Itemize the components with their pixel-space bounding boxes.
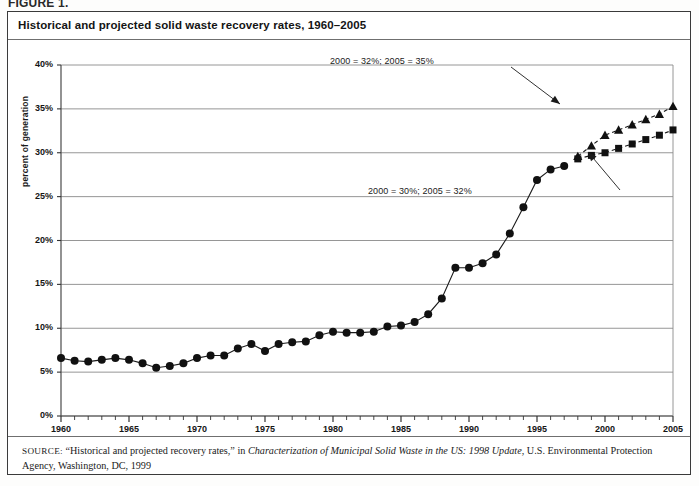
data-point-circle [302, 337, 310, 345]
data-point-circle [506, 229, 514, 237]
series-1 [573, 102, 677, 160]
data-point-circle [479, 259, 487, 267]
data-point-triangle [600, 131, 609, 139]
data-point-circle [179, 359, 187, 367]
data-point-square [574, 155, 581, 162]
data-point-circle [465, 264, 473, 272]
data-point-circle [547, 165, 555, 173]
data-point-circle [370, 328, 378, 336]
data-point-circle [519, 203, 527, 211]
data-point-square [656, 132, 663, 139]
data-point-circle [492, 251, 500, 259]
data-point-circle [451, 264, 459, 272]
series-0 [57, 162, 568, 372]
data-point-circle [261, 347, 269, 355]
data-point-circle [57, 354, 65, 362]
figure-box: Historical and projected solid waste rec… [7, 11, 691, 475]
figure-page: FIGURE 1. Historical and projected solid… [0, 0, 699, 486]
data-point-circle [84, 358, 92, 366]
data-point-circle [152, 364, 160, 372]
data-point-circle [275, 340, 283, 348]
data-point-circle [139, 359, 147, 367]
data-point-square [615, 145, 622, 152]
data-point-circle [234, 344, 242, 352]
data-point-square [670, 126, 677, 133]
cropped-heading-above-figure: FIGURE 1. [8, 0, 128, 10]
data-point-triangle [614, 125, 623, 133]
data-point-circle [98, 356, 106, 364]
data-point-circle [111, 354, 119, 362]
data-point-square [642, 136, 649, 143]
data-point-circle [193, 354, 201, 362]
data-point-circle [438, 294, 446, 302]
annotation-arrow-upper [511, 67, 560, 104]
data-point-circle [560, 162, 568, 170]
data-point-circle [166, 362, 174, 370]
chart-plot-area [8, 12, 692, 476]
data-point-circle [288, 338, 296, 346]
source-label: SOURCE: [22, 446, 63, 456]
data-point-circle [220, 351, 228, 359]
data-point-circle [411, 318, 419, 326]
data-point-triangle [668, 102, 677, 110]
data-point-square [629, 140, 636, 147]
data-point-circle [71, 357, 79, 365]
data-point-triangle [641, 115, 650, 123]
data-point-circle [397, 322, 405, 330]
data-point-circle [247, 340, 255, 348]
data-point-circle [329, 328, 337, 336]
source-note: SOURCE: “Historical and projected recove… [22, 444, 674, 474]
source-publication-title: Characterization of Municipal Solid Wast… [248, 445, 522, 456]
data-point-circle [125, 356, 133, 364]
data-point-circle [533, 176, 541, 184]
data-point-square [602, 149, 609, 156]
data-point-triangle [587, 141, 596, 149]
data-point-circle [343, 329, 351, 337]
source-text-part1: “Historical and projected recovery rates… [63, 445, 248, 456]
data-point-circle [207, 351, 215, 359]
data-point-circle [424, 310, 432, 318]
annotation-arrow-lower [588, 152, 620, 190]
data-point-circle [356, 329, 364, 337]
data-point-circle [383, 322, 391, 330]
data-point-triangle [628, 120, 637, 128]
data-point-triangle [655, 110, 664, 118]
data-point-circle [315, 331, 323, 339]
